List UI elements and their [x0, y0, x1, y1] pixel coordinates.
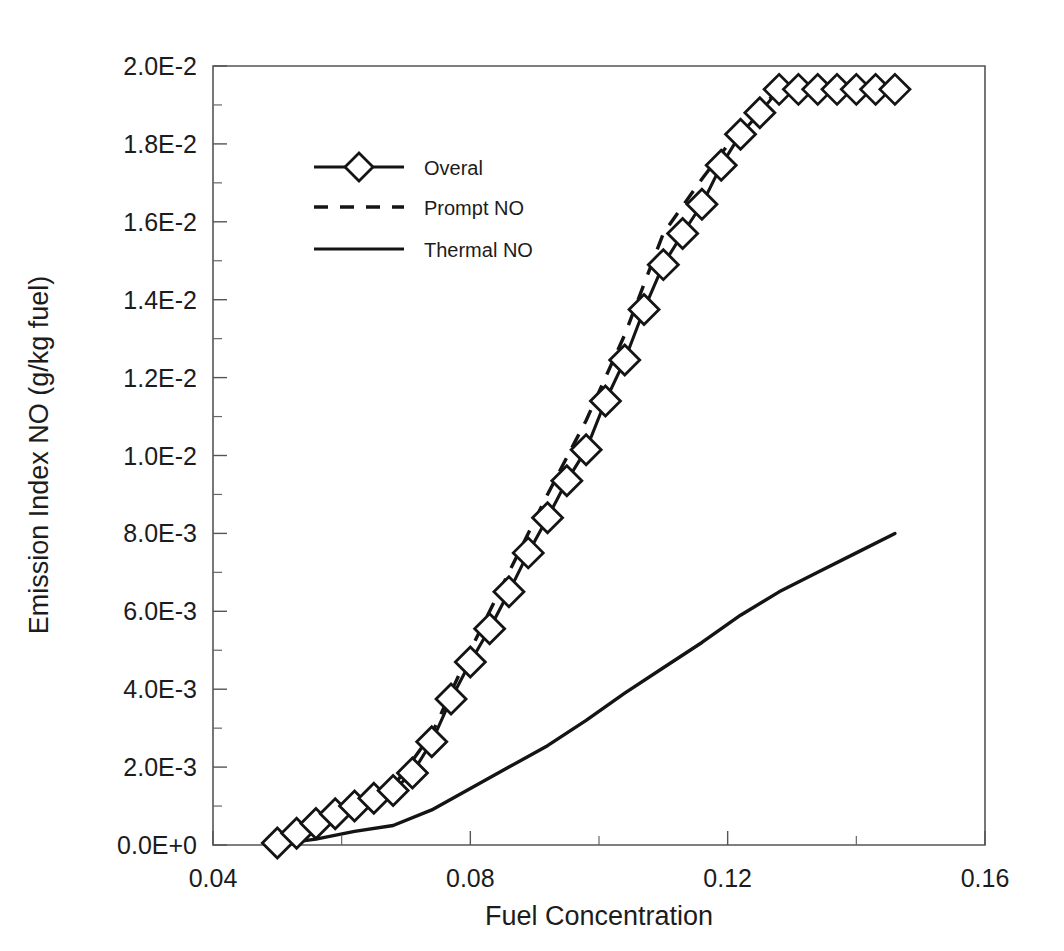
y-tick-label: 0.0E+0 — [117, 831, 197, 859]
plot-axes — [213, 66, 985, 845]
data-point-marker — [610, 345, 640, 375]
y-tick-label: 8.0E-3 — [123, 519, 197, 547]
y-tick-label: 1.8E-2 — [123, 130, 197, 158]
y-tick-label: 1.4E-2 — [123, 286, 197, 314]
y-axis-ticks — [213, 66, 227, 845]
data-point-marker — [436, 684, 466, 714]
x-tick-label: 0.12 — [703, 864, 752, 892]
y-tick-label: 6.0E-3 — [123, 597, 197, 625]
data-point-marker — [648, 250, 678, 280]
data-point-marker — [417, 727, 447, 757]
x-tick-label: 0.04 — [189, 864, 238, 892]
chart-legend: Overal Prompt NO Thermal NO — [314, 153, 533, 261]
data-point-marker — [494, 577, 524, 607]
y-axis-tick-labels: 0.0E+02.0E-34.0E-36.0E-38.0E-31.0E-21.2E… — [117, 52, 197, 859]
y-tick-label: 1.0E-2 — [123, 442, 197, 470]
legend-entry-prompt-no[interactable]: Prompt NO — [314, 197, 524, 219]
legend-swatch-overal-diamond-icon — [345, 153, 373, 181]
chart-plot: 0.0E+02.0E-34.0E-36.0E-38.0E-31.0E-21.2E… — [0, 0, 1064, 951]
y-tick-label: 1.2E-2 — [123, 364, 197, 392]
data-point-marker — [475, 614, 505, 644]
data-point-marker — [513, 538, 543, 568]
x-tick-label: 0.08 — [446, 864, 495, 892]
data-point-marker — [880, 74, 910, 104]
legend-label-prompt-no: Prompt NO — [424, 197, 524, 219]
chart-container: 0.0E+02.0E-34.0E-36.0E-38.0E-31.0E-21.2E… — [0, 0, 1064, 951]
x-axis-title: Fuel Concentration — [485, 901, 713, 931]
y-tick-label: 1.6E-2 — [123, 208, 197, 236]
x-tick-label: 0.16 — [961, 864, 1010, 892]
data-point-marker — [552, 466, 582, 496]
data-point-marker — [455, 647, 485, 677]
legend-label-thermal-no: Thermal NO — [424, 239, 533, 261]
legend-entry-overal[interactable]: Overal — [314, 153, 483, 181]
data-point-marker — [590, 386, 620, 416]
y-axis-title: Emission Index NO (g/kg fuel) — [24, 276, 54, 635]
y-tick-label: 2.0E-3 — [123, 753, 197, 781]
legend-entry-thermal-no[interactable]: Thermal NO — [314, 239, 533, 261]
data-series-layer — [262, 74, 910, 858]
axis-frame — [213, 66, 985, 845]
y-tick-label: 4.0E-3 — [123, 675, 197, 703]
data-point-marker — [706, 150, 736, 180]
series-markers-overal — [262, 74, 910, 858]
y-tick-label: 2.0E-2 — [123, 52, 197, 80]
data-point-marker — [533, 503, 563, 533]
legend-label-overal: Overal — [424, 157, 483, 179]
data-point-marker — [629, 294, 659, 324]
x-axis-tick-labels: 0.040.080.120.16 — [189, 864, 1010, 892]
